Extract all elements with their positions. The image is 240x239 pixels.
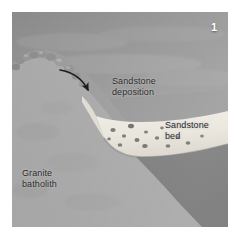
illustration-plate: Sandstone deposition Sandstone bed Grani… — [12, 12, 228, 227]
cross-section-illustration — [12, 12, 228, 227]
geology-figure: Sandstone deposition Sandstone bed Grani… — [0, 0, 240, 239]
panel-number-badge: 1 — [211, 21, 217, 33]
